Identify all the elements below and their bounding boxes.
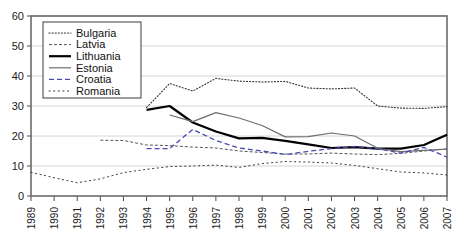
x-tick-label: 2000 (280, 207, 291, 230)
x-tick-label: 2005 (396, 207, 407, 230)
x-tick-label: 1992 (95, 207, 106, 230)
legend-label-bulgaria: Bulgaria (76, 27, 117, 39)
y-tick-label: 10 (12, 160, 24, 172)
x-tick-label: 2003 (350, 207, 361, 230)
legend-label-estonia: Estonia (76, 62, 114, 74)
legend-label-latvia: Latvia (76, 38, 106, 50)
y-tick-label: 60 (12, 10, 24, 22)
chart-legend: BulgariaLatviaLithuaniaEstoniaCroatiaRom… (43, 22, 141, 98)
x-tick-label: 1996 (188, 207, 199, 230)
x-tick-label: 2006 (419, 207, 430, 230)
x-tick-label: 1999 (257, 207, 268, 230)
legend-label-lithuania: Lithuania (76, 50, 122, 62)
x-tick-label: 2007 (442, 207, 453, 230)
x-tick-label: 2002 (326, 207, 337, 230)
legend-label-croatia: Croatia (76, 73, 112, 85)
x-tick-label: 1997 (211, 207, 222, 230)
y-tick-label: 40 (12, 70, 24, 82)
x-tick-label: 1991 (72, 207, 83, 230)
legend-label-romania: Romania (76, 85, 121, 97)
y-tick-label: 50 (12, 40, 24, 52)
x-tick-label: 1998 (234, 207, 245, 230)
x-tick-label: 2001 (303, 207, 314, 230)
y-tick-label: 20 (12, 130, 24, 142)
y-tick-label: 30 (12, 100, 24, 112)
x-tick-label: 1989 (26, 207, 37, 230)
x-tick-label: 2004 (373, 207, 384, 230)
chart-canvas: 0102030405060 19891990199119921993199419… (0, 0, 459, 237)
line-chart: 0102030405060 19891990199119921993199419… (0, 0, 459, 237)
y-tick-label: 0 (18, 190, 24, 202)
x-tick-label: 1994 (142, 207, 153, 230)
x-tick-label: 1995 (165, 207, 176, 230)
x-tick-label: 1990 (49, 207, 60, 230)
x-tick-label: 1993 (118, 207, 129, 230)
